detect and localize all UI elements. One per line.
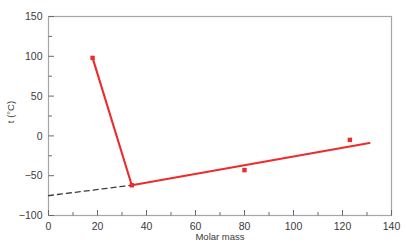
x-tick-label: 0 bbox=[46, 220, 52, 232]
data-point-marker bbox=[348, 138, 352, 142]
chart-figure: 020406080100120140 −100−50050100150 Mola… bbox=[0, 0, 406, 246]
x-tick-label: 60 bbox=[190, 220, 202, 232]
y-tick-label: 100 bbox=[25, 50, 43, 62]
x-axis-label: Molar mass bbox=[195, 231, 244, 242]
y-tick-label: −50 bbox=[25, 169, 43, 181]
data-point-marker bbox=[130, 183, 134, 187]
data-point-marker bbox=[90, 56, 94, 60]
x-tick-label: 140 bbox=[383, 220, 401, 232]
y-tick-label: −100 bbox=[19, 209, 43, 221]
x-tick-label: 120 bbox=[334, 220, 352, 232]
plot-frame bbox=[49, 17, 392, 216]
y-axis-label: t (°C) bbox=[5, 101, 16, 123]
x-tick-label: 80 bbox=[239, 220, 251, 232]
y-tick-label: 50 bbox=[31, 90, 43, 102]
x-tick-label: 100 bbox=[285, 220, 303, 232]
data-point-marker bbox=[242, 168, 246, 172]
x-tick-label: 20 bbox=[92, 220, 104, 232]
y-tick-label: 150 bbox=[25, 10, 43, 22]
x-tick-label: 40 bbox=[141, 220, 153, 232]
y-tick-label: 0 bbox=[37, 130, 43, 142]
